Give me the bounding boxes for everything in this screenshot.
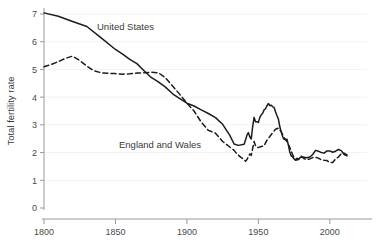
gridlines xyxy=(44,14,367,180)
x-tick-label: 1800 xyxy=(34,227,54,237)
x-tick-label: 1900 xyxy=(177,227,197,237)
chart-canvas: 01234567 18001850190019502000 United Sta… xyxy=(0,0,376,246)
y-axis-ticks: 01234567 xyxy=(32,9,44,213)
y-tick-label: 7 xyxy=(32,9,37,19)
x-tick-label: 1850 xyxy=(105,227,125,237)
y-tick-label: 1 xyxy=(32,176,37,186)
series-annotation: England and Wales xyxy=(119,139,201,150)
y-tick-label: 4 xyxy=(32,93,37,103)
y-tick-label: 2 xyxy=(32,148,37,158)
x-tick-label: 1950 xyxy=(248,227,268,237)
series-line-united-states xyxy=(44,13,347,160)
y-tick-label: 5 xyxy=(32,65,37,75)
y-tick-label: 3 xyxy=(32,120,37,130)
x-tick-label: 2000 xyxy=(320,227,340,237)
fertility-rate-chart: 01234567 18001850190019502000 United Sta… xyxy=(0,0,376,246)
x-axis-ticks: 18001850190019502000 xyxy=(34,219,340,237)
series-annotations: United StatesEngland and Wales xyxy=(97,21,201,150)
y-tick-label: 0 xyxy=(32,203,37,213)
y-axis-title: Total fertility rate xyxy=(5,76,16,145)
y-tick-label: 6 xyxy=(32,37,37,47)
series-annotation: United States xyxy=(97,21,154,32)
